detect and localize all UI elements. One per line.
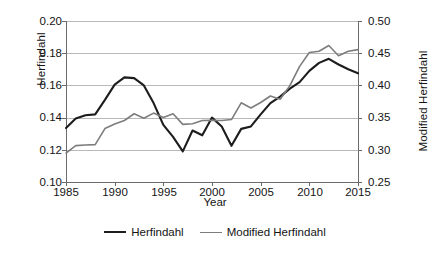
legend-entry-herfindahl: Herfindahl xyxy=(104,226,183,238)
gridlines xyxy=(66,22,358,183)
legend-entry-modified-herfindahl: Modified Herfindahl xyxy=(200,226,326,238)
series-line-modified-herfindahl xyxy=(66,45,358,153)
series-line-herfindahl xyxy=(66,59,358,152)
series-lines xyxy=(66,45,358,153)
legend-label-herfindahl: Herfindahl xyxy=(131,226,183,238)
axis-tick-marks xyxy=(62,22,362,187)
herfindahl-line-chart: Herfindahl Modified Herfindahl Year 0.20… xyxy=(0,0,430,253)
legend-line-icon-herfindahl xyxy=(104,231,126,233)
legend-label-modified-herfindahl: Modified Herfindahl xyxy=(227,226,326,238)
plot-area xyxy=(0,0,430,253)
chart-legend: Herfindahl Modified Herfindahl xyxy=(0,226,430,238)
legend-line-icon-modified-herfindahl xyxy=(200,232,222,233)
axis-lines xyxy=(66,21,359,183)
